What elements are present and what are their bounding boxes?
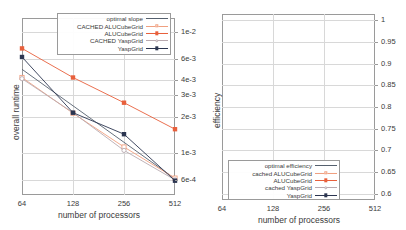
data-point-marker [71,111,75,115]
x-tick-label: 512 [369,205,382,213]
legend-item-label: YaspGrid [118,45,146,52]
legend-item-label: cached ALUCubeGrid [252,170,315,177]
legend-item: ALUCubeGrid [231,177,337,184]
y-tick-mark [375,107,378,108]
y-tick-mark [375,194,378,195]
data-point-marker [20,77,24,81]
y-tick-label: 2e-3 [181,113,196,121]
series-line [22,69,175,178]
y-tick-mark [375,129,378,130]
x-tick-label: 128 [267,205,280,213]
legend-item-label: YaspGrid [287,192,315,199]
y-tick-mark [375,20,378,21]
y-tick-mark [175,80,178,81]
y-tick-mark [175,117,178,118]
y-tick-label: 3e-3 [181,91,196,99]
y-tick-mark [375,172,378,173]
y-tick-mark [175,95,178,96]
legend-item: optimal slope [60,15,168,22]
legend-item-label: optimal efficiency [265,162,315,169]
data-point-marker [20,46,24,50]
legend-item: cached YaspGrid [231,184,337,191]
data-point-marker [71,75,75,79]
x-tick-label: 64 [18,200,26,208]
y-tick-label: 0.6 [381,190,391,198]
y-tick-label: 1 [381,16,385,24]
y-tick-mark [175,180,178,181]
legend-item-swatch [146,30,168,37]
y-tick-label: 0.75 [381,125,396,133]
legend-item: ALUCubeGrid [60,30,168,37]
y-tick-mark [175,32,178,33]
legend-item-label: ALUCubeGrid [104,30,146,37]
legend-item-swatch [315,162,337,169]
runtime-legend: optimal slopeCACHED ALUCubeGridALUCubeGr… [57,13,171,55]
y-tick-label: 6e-3 [181,55,196,63]
legend-item-swatch [146,23,168,30]
y-tick-mark [175,153,178,154]
y-tick-label: 0.7 [381,146,391,154]
legend-item-swatch [315,177,337,184]
y-tick-label: 4e-3 [181,76,196,84]
efficiency-y-axis-title: efficiency [212,93,222,128]
y-tick-label: 6e-4 [181,176,196,184]
y-tick-label: 1e-2 [181,28,196,36]
series-line [22,78,175,179]
x-tick-label: 64 [218,205,226,213]
y-tick-label: 1e-3 [181,149,196,157]
y-tick-label: 0.9 [381,60,391,68]
y-tick-label: 0.8 [381,103,391,111]
y-tick-label: 0.95 [381,38,396,46]
legend-item: cached ALUCubeGrid [231,169,337,176]
x-tick-label: 128 [67,200,80,208]
legend-item: CACHED YaspGrid [60,37,168,44]
legend-item-label: optimal slope [107,15,146,22]
efficiency-x-axis-title: number of processors [258,215,340,225]
legend-item-swatch [146,37,168,44]
y-tick-mark [375,150,378,151]
data-point-marker [122,132,126,136]
y-tick-mark [375,64,378,65]
data-point-marker [122,148,126,152]
data-point-marker [122,101,126,105]
legend-item-swatch [315,192,337,199]
legend-item: YaspGrid [60,45,168,52]
y-tick-label: 0.85 [381,81,396,89]
legend-item: optimal efficiency [231,162,337,169]
y-tick-label: 0.65 [381,168,396,176]
legend-item-label: ALUCubeGrid [273,177,315,184]
y-tick-mark [375,85,378,86]
legend-item: CACHED ALUCubeGrid [60,22,168,29]
runtime-chart-panel: 1e-26e-34e-33e-32e-31e-36e-4 64128256512… [0,0,203,230]
legend-item-label: CACHED YaspGrid [90,37,146,44]
legend-item-label: cached YaspGrid [265,184,315,191]
series-line [22,79,175,180]
series-line [22,48,175,129]
runtime-y-axis-title: overall runtime [11,84,21,140]
data-point-marker [173,127,177,131]
legend-item-swatch [146,45,168,52]
legend-item: YaspGrid [231,192,337,199]
efficiency-legend: optimal efficiencycached ALUCubeGridALUC… [228,160,340,200]
x-tick-label: 256 [118,200,131,208]
legend-item-swatch [146,15,168,22]
runtime-x-axis-title: number of processors [58,210,140,220]
legend-item-label: CACHED ALUCubeGrid [77,23,146,30]
legend-item-swatch [315,184,337,191]
y-tick-mark [375,42,378,43]
legend-item-swatch [315,170,337,177]
efficiency-chart-panel: 10.950.90.850.80.750.70.650.6 6412825651… [203,0,406,230]
x-tick-label: 512 [169,200,182,208]
data-point-marker [20,55,24,59]
y-tick-mark [175,59,178,60]
x-tick-label: 256 [318,205,331,213]
